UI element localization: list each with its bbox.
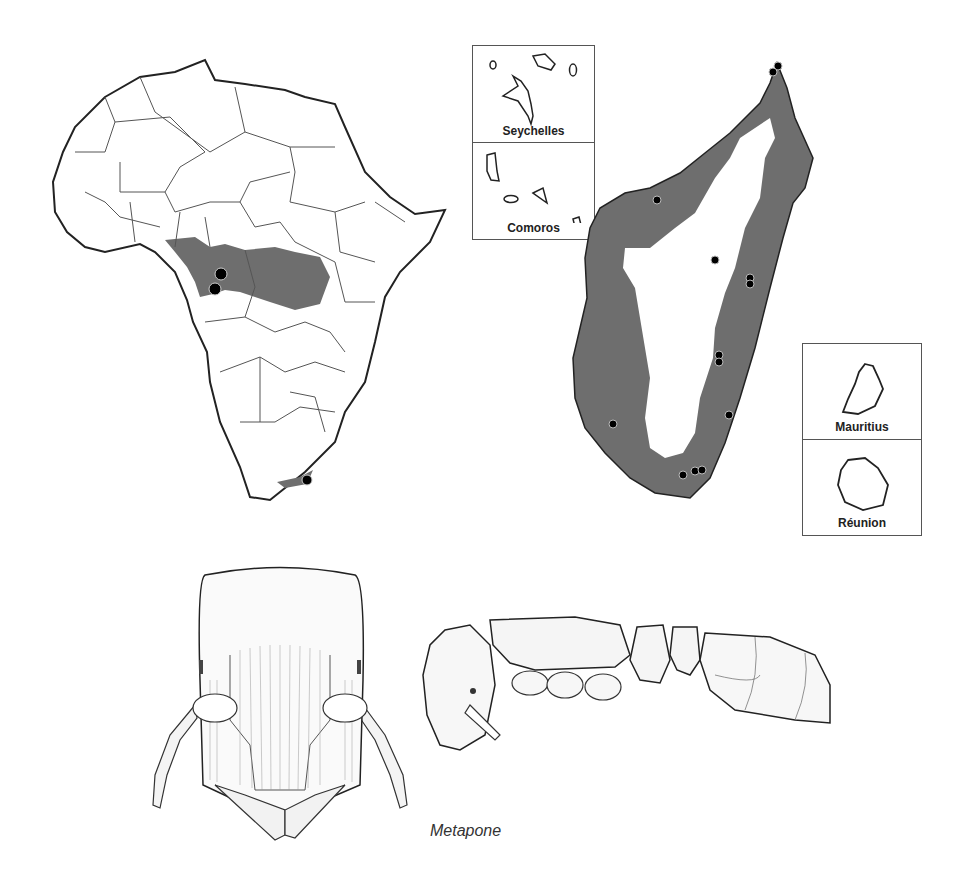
africa-map [45, 52, 455, 502]
body-lateral-illustration [415, 605, 840, 785]
record-dot [653, 196, 661, 204]
record-dot [609, 420, 617, 428]
postpetiole [670, 627, 700, 675]
gaster [700, 633, 830, 723]
reunion-island [803, 440, 921, 518]
madagascar-map [555, 58, 825, 503]
record-dot [746, 280, 754, 288]
record-dot [715, 358, 723, 366]
head-lateral [423, 625, 495, 750]
reunion-label: Réunion [803, 516, 921, 530]
inset-reunion: Réunion [803, 440, 921, 535]
left-antenna [153, 705, 197, 808]
right-antenna [360, 705, 407, 808]
mauritius-island [803, 344, 921, 422]
right-eye [357, 660, 361, 674]
mauritius-label: Mauritius [803, 420, 921, 434]
mesosoma [490, 617, 630, 670]
right-scape [323, 694, 367, 722]
inset-mauritius-reunion: Mauritius Réunion [802, 343, 922, 536]
record-dot [215, 268, 227, 280]
record-dot [698, 466, 706, 474]
eye-lateral [470, 688, 476, 694]
genus-caption: Metapone [430, 822, 501, 840]
coxa-3 [585, 674, 621, 700]
record-dot [209, 283, 221, 295]
left-scape [193, 694, 237, 722]
record-dot [302, 475, 312, 485]
coxa-2 [547, 672, 583, 698]
left-eye [199, 660, 203, 674]
record-dot [769, 68, 777, 76]
record-dot [725, 411, 733, 419]
record-dot [679, 471, 687, 479]
record-dot [711, 256, 719, 264]
coxa-1 [512, 671, 548, 695]
head-illustration [135, 560, 425, 845]
head-capsule [199, 568, 363, 816]
inset-mauritius: Mauritius [803, 344, 921, 440]
petiole [630, 625, 670, 683]
